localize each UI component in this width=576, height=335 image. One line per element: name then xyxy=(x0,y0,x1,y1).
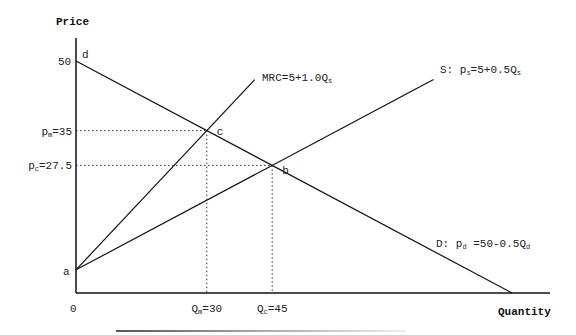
guide-lines xyxy=(76,131,272,293)
price-level-label-c: pc=27.5 xyxy=(28,160,72,173)
price-level-label-m: pm=35 xyxy=(41,126,72,139)
curves xyxy=(76,61,512,293)
supply-label: S: ps=5+0.5Qs xyxy=(440,64,521,77)
point-label-d: d xyxy=(82,49,89,61)
bottom-rule xyxy=(116,330,406,332)
point-label-a: a xyxy=(63,266,70,278)
supply-curve xyxy=(76,80,434,270)
point-label-c: c xyxy=(217,126,224,138)
labels: pm=35pc=27.5Qm=30Qc=45abcdD: pd =50-0.5Q… xyxy=(28,49,530,316)
demand-label: D: pd =50-0.5Qd xyxy=(436,238,530,251)
mrc-label: MRC=5+1.0Qs xyxy=(262,72,332,85)
quantity-level-label-m: Qm=30 xyxy=(191,303,222,316)
demand-curve xyxy=(76,61,512,293)
monopsony-diagram: Price Quantity 0 50 pm=35pc=27.5Qm=30Qc=… xyxy=(0,0,576,335)
origin-label: 0 xyxy=(70,303,77,315)
y-axis-label: Price xyxy=(56,16,89,28)
x-axis-label: Quantity xyxy=(498,306,551,318)
y-tick-50: 50 xyxy=(58,56,71,68)
quantity-level-label-c: Qc=45 xyxy=(257,303,288,316)
point-label-b: b xyxy=(282,165,289,177)
